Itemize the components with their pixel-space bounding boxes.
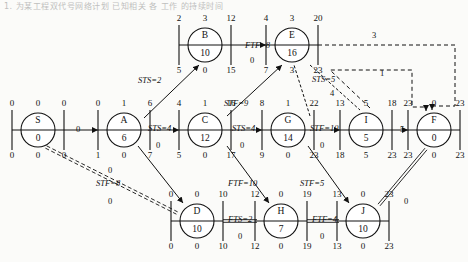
edge-label-23: 1	[380, 68, 384, 78]
node-d-name: D	[185, 206, 209, 216]
node-i-tf: 5	[354, 150, 378, 160]
node-b-ef: 12	[219, 13, 243, 23]
edge-label-24: 0	[108, 196, 112, 206]
node-b-es: 2	[167, 13, 191, 23]
node-e-ef: 20	[306, 13, 330, 23]
node-j-lf: 23	[377, 241, 401, 251]
node-h-ff: 0	[269, 189, 293, 199]
edge-label-12: STF=8	[96, 178, 120, 188]
edge-label-8: STF=10	[310, 123, 338, 133]
node-f-ef: 23	[448, 98, 468, 108]
node-s-ff: 0	[26, 98, 50, 108]
node-h-lf: 19	[295, 241, 319, 251]
node-c-es: 4	[167, 98, 191, 108]
edge-label-18: 0	[320, 231, 324, 241]
node-a-es: 0	[86, 98, 110, 108]
node-a-lf: 7	[138, 150, 162, 160]
node-j-name: J	[351, 206, 375, 216]
node-f-ff: 0	[422, 98, 446, 108]
edge-label-3: STF=9	[224, 98, 248, 108]
node-s-ls: 0	[0, 150, 24, 160]
edge-label-5: 0	[156, 140, 160, 150]
node-d-duration: 10	[185, 224, 209, 234]
node-i-duration: 5	[354, 133, 378, 143]
edge-label-2: 0	[250, 55, 254, 65]
node-s-lf: 0	[52, 150, 76, 160]
node-c-ls: 5	[167, 150, 191, 160]
node-e-name: E	[280, 30, 304, 40]
node-b-name: B	[193, 30, 217, 40]
network-diagram-canvas: 1. 为某工程双代号网络计划 已知相关 各 工作 的持续时间 S0000000A…	[0, 0, 468, 262]
node-i-es: 13	[328, 98, 352, 108]
node-b-ls: 5	[167, 65, 191, 75]
node-g-duration: 14	[276, 133, 300, 143]
node-g-ef: 22	[302, 98, 326, 108]
node-f-name: F	[422, 115, 446, 125]
edge-label-4: STS=4	[148, 123, 171, 133]
edge-label-21: 4	[330, 88, 334, 98]
node-g-es: 8	[250, 98, 274, 108]
node-b-lf: 15	[219, 65, 243, 75]
node-f-duration: 0	[422, 133, 446, 143]
node-a-ls: 1	[86, 150, 110, 160]
node-i-ls: 18	[328, 150, 352, 160]
edge-label-19: STF=5	[300, 178, 324, 188]
edge-label-1: FTF=8	[245, 40, 270, 50]
node-g-ff: 1	[276, 98, 300, 108]
node-s-es: 0	[0, 98, 24, 108]
node-b-tf: 0	[193, 65, 217, 75]
edge-label-25: 0	[404, 196, 408, 206]
node-f-ls: 23	[396, 150, 420, 160]
node-s-name: S	[26, 115, 50, 125]
node-s-ef: 0	[52, 98, 76, 108]
node-i-ff: 5	[354, 98, 378, 108]
node-h-name: H	[269, 206, 293, 216]
node-h-ef: 19	[295, 189, 319, 199]
node-j-duration: 10	[351, 224, 375, 234]
node-j-es: 13	[325, 189, 349, 199]
node-c-name: C	[193, 115, 217, 125]
node-f-tf: 0	[422, 150, 446, 160]
node-a-tf: 0	[112, 150, 136, 160]
node-e-ls: 7	[254, 65, 278, 75]
edge-label-9: 0	[320, 140, 324, 150]
node-j-tf: 0	[351, 241, 375, 251]
node-c-lf: 17	[219, 150, 243, 160]
node-i-name: I	[354, 115, 378, 125]
node-e-tf: 3	[280, 65, 304, 75]
node-h-tf: 0	[269, 241, 293, 251]
node-e-ff: 3	[280, 13, 304, 23]
node-f-lf: 23	[448, 150, 468, 160]
node-g-tf: 0	[276, 150, 300, 160]
edge-label-17: FTF=4	[312, 214, 337, 224]
edge-label-14: FTF=10	[228, 178, 257, 188]
node-j-ff: 0	[351, 189, 375, 199]
node-e-duration: 16	[280, 48, 304, 58]
edge-label-7: 0	[240, 140, 244, 150]
node-a-name: A	[112, 115, 136, 125]
edge-label-22: 3	[372, 30, 376, 40]
node-g-lf: 23	[302, 150, 326, 160]
node-e-es: 4	[254, 13, 278, 23]
node-c-ff: 1	[193, 98, 217, 108]
node-d-ff: 0	[185, 189, 209, 199]
node-j-ls: 13	[325, 241, 349, 251]
node-d-ef: 10	[211, 189, 235, 199]
edge-label-13: 0	[108, 165, 112, 175]
edge-label-11: 5	[400, 124, 404, 134]
node-d-ls: 0	[159, 241, 183, 251]
node-g-ls: 9	[250, 150, 274, 160]
edge-label-20: STS=5	[312, 74, 335, 84]
node-s-tf: 0	[26, 150, 50, 160]
edge-label-10: 0	[76, 124, 80, 134]
node-a-ff: 1	[112, 98, 136, 108]
node-a-duration: 6	[112, 133, 136, 143]
node-h-ls: 12	[243, 241, 267, 251]
edge-label-15: FTS=2	[228, 214, 252, 224]
edge-label-0: STS=2	[138, 75, 161, 85]
node-b-duration: 10	[193, 48, 217, 58]
node-s-duration: 0	[26, 133, 50, 143]
node-d-lf: 10	[211, 241, 235, 251]
edge-label-16: 0	[238, 231, 242, 241]
edge-label-6: STS=4	[232, 123, 255, 133]
